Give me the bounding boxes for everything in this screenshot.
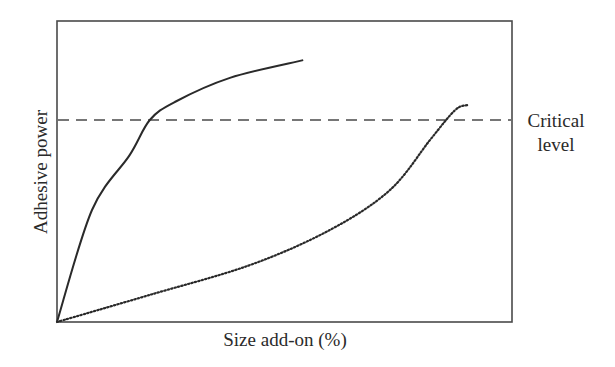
plot-frame — [57, 21, 512, 322]
dotted-curve — [57, 105, 468, 322]
solid-curve — [57, 60, 303, 322]
critical-level-label-line1: Critical — [528, 110, 585, 131]
critical-level-label-line2: level — [538, 134, 575, 155]
x-axis-label: Size add-on (%) — [223, 329, 346, 351]
chart: Adhesive power Size add-on (%) Critical … — [0, 0, 615, 367]
y-axis-label: Adhesive power — [30, 109, 51, 234]
